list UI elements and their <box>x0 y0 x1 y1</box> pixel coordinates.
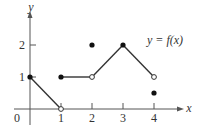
y-tick-label-1: 1 <box>19 70 25 84</box>
closed-point-3-2 <box>120 42 125 47</box>
closed-point-4-half <box>151 90 156 95</box>
x-tick-label-3: 3 <box>120 111 126 125</box>
x-tick-label-4: 4 <box>151 111 157 125</box>
segment-0-1 <box>30 77 61 109</box>
segment-3-4 <box>123 45 154 77</box>
x-axis-label: x <box>185 101 192 115</box>
x-tick-label-1: 1 <box>58 111 64 125</box>
segment-2-3 <box>92 45 123 77</box>
open-point-1-0 <box>59 107 64 112</box>
y-axis-label: y <box>27 0 34 14</box>
function-graph: 0 1 2 3 4 1 2 x y y = f(x) <box>0 0 203 132</box>
origin-label: 0 <box>14 111 20 125</box>
open-points <box>59 75 157 112</box>
x-axis-arrow-icon <box>177 107 184 112</box>
open-point-4-1 <box>152 75 157 80</box>
closed-point-2-2 <box>89 42 94 47</box>
x-tick-label-2: 2 <box>89 111 95 125</box>
open-point-2-1 <box>90 75 95 80</box>
closed-point-1-1 <box>58 74 63 79</box>
closed-point-0-1 <box>27 74 32 79</box>
function-label: y = f(x) <box>146 33 183 47</box>
y-tick-label-2: 2 <box>19 38 25 52</box>
closed-points <box>27 42 156 95</box>
